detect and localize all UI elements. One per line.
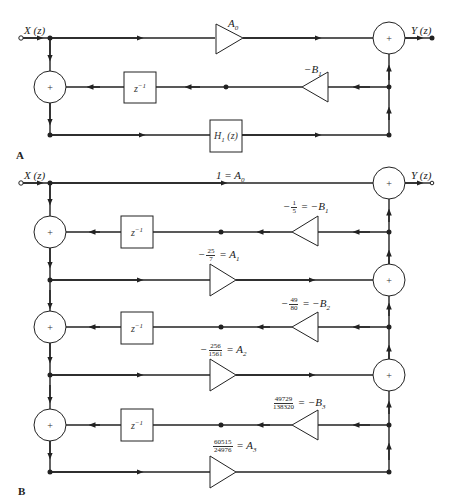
gain-a0-label: A0: [228, 18, 238, 32]
coef-b2-label: −4980 = −B2: [281, 297, 330, 312]
gain-b1-label: −B1: [304, 64, 322, 78]
coef-a1-label: −257 = A1: [198, 248, 239, 263]
coef-a3-label: 6051524976 = A3: [212, 439, 256, 454]
adder-left-a: +: [42, 82, 58, 93]
adder-output-a: +: [381, 33, 397, 44]
input-label-a: X (z): [24, 25, 45, 36]
adder-output-b: +: [381, 178, 397, 189]
input-label-b: X (z): [24, 170, 45, 181]
delay-block-2: z−1: [121, 322, 153, 334]
adder-left-1: +: [42, 227, 58, 238]
coef-b3-label: 49729138320 = −B3: [272, 396, 326, 411]
coef-b1-label: −15 = −B1: [283, 200, 329, 215]
delay-block-1: z−1: [121, 226, 153, 238]
figure-label-b: B: [18, 485, 25, 497]
adder-left-3: +: [42, 420, 58, 431]
figure-label-a: A: [16, 149, 24, 161]
coef-a2-label: −2561561 = A2: [200, 343, 246, 358]
adder-right-1: +: [381, 275, 397, 286]
delay-block-3: z−1: [121, 419, 153, 431]
h1-block: H1 (z): [210, 130, 242, 144]
output-label-a: Y (z): [411, 25, 431, 36]
adder-right-2: +: [381, 370, 397, 381]
adder-left-2: +: [42, 322, 58, 333]
delay-block-a: z−1: [124, 82, 156, 94]
direct-gain-label: 1 = A0: [216, 170, 244, 184]
output-label-b: Y (z): [411, 170, 431, 181]
